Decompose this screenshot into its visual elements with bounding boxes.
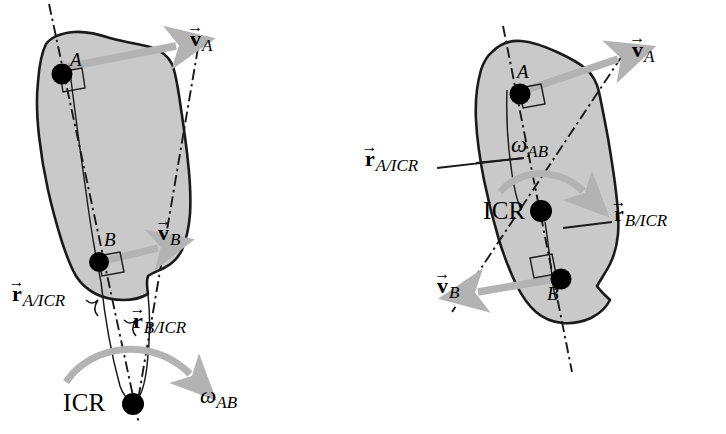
vector-subscript: A/ICR (375, 156, 419, 175)
velocity-b-symbol-left: → v (158, 222, 169, 244)
vector-subscript: A (643, 47, 654, 66)
vector-subscript: B/ICR (143, 318, 187, 337)
label-velocity-b-left: → v B (158, 222, 180, 248)
label-velocity-a-right: → v A (632, 39, 654, 65)
point-marker-a-right (510, 84, 531, 105)
vector-arrow-glyph: → (9, 274, 25, 290)
label-r-a-icr-left: → r A/ICR (12, 283, 65, 309)
r-a-symbol-left: → r (12, 283, 22, 305)
r-b-symbol-right: → r (614, 203, 624, 225)
velocity-b-symbol-right: → v (437, 275, 448, 297)
vector-subscript: A/ICR (22, 291, 66, 310)
omega-subscript: AB (216, 393, 237, 412)
label-velocity-a-left: → v A (190, 28, 212, 54)
velocity-a-symbol-left: → v (190, 28, 201, 50)
point-marker-icr-right (530, 200, 552, 222)
vector-arrow-glyph: → (362, 139, 378, 155)
right-panel-group (437, 26, 622, 372)
label-omega-ab-right: ωAB (511, 133, 548, 160)
vector-subscript: A (201, 36, 212, 55)
vector-subscript: B/ICR (624, 211, 668, 230)
omega-glyph: ω (200, 383, 216, 408)
vector-arrow-glyph: → (629, 30, 645, 46)
label-point-b-right: B (547, 284, 559, 303)
vector-arrow-glyph: → (434, 266, 450, 282)
label-omega-ab-left: ωAB (200, 384, 237, 411)
figure-root: A B ICR → v A → v B → r A/ICR → r B/ICR … (0, 0, 726, 434)
label-r-b-icr-left: → r B/ICR (133, 310, 186, 336)
label-point-b-left: B (104, 230, 116, 249)
label-velocity-b-right: → v B (437, 275, 459, 301)
vector-arrow-glyph: → (130, 301, 146, 317)
label-icr-left: ICR (63, 390, 106, 415)
vector-subscript: B (169, 230, 180, 249)
point-marker-icr-left (122, 393, 144, 415)
vector-arrow-glyph: → (187, 19, 203, 35)
omega-glyph: ω (511, 132, 527, 157)
omega-subscript: AB (527, 142, 548, 161)
label-r-b-icr-right: → r B/ICR (614, 203, 667, 229)
label-r-a-icr-right: → r A/ICR (365, 148, 418, 174)
brace-rA-left (86, 300, 98, 316)
label-point-a-right: A (517, 62, 529, 81)
label-icr-right: ICR (483, 198, 526, 223)
label-point-a-left: A (70, 50, 82, 69)
vector-subscript: B (448, 283, 459, 302)
left-panel-group (37, 4, 198, 424)
r-a-symbol-right: → r (365, 148, 375, 170)
point-marker-b-left (89, 252, 109, 272)
velocity-a-symbol-right: → v (632, 39, 643, 61)
vector-arrow-glyph: → (155, 213, 171, 229)
r-b-symbol-left: → r (133, 310, 143, 332)
vector-arrow-glyph: → (611, 194, 627, 210)
